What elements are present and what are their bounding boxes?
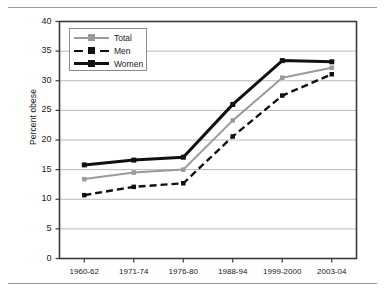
data-point-marker-total — [132, 170, 137, 175]
data-point-marker-women — [82, 162, 87, 167]
legend-label-women: Women — [111, 59, 143, 69]
legend-swatch-men-icon — [74, 45, 111, 56]
chart-legend: Total Men Women — [69, 28, 147, 71]
data-point-marker-total — [280, 76, 285, 81]
data-point-marker-men — [280, 93, 285, 98]
legend-label-total: Total — [111, 33, 132, 43]
x-tick-label: 1976-80 — [169, 267, 198, 276]
x-tick-label: 1960-62 — [70, 267, 99, 276]
data-series-layer — [82, 58, 334, 197]
data-point-marker-men — [132, 185, 137, 190]
y-tick-label: 0 — [26, 253, 52, 263]
y-tick-label: 35 — [26, 45, 52, 55]
x-tick-label: 1971-74 — [119, 267, 148, 276]
legend-item-women: Women — [74, 57, 143, 70]
legend-item-men: Men — [74, 44, 131, 57]
x-tick-label: 2003-04 — [317, 267, 346, 276]
y-tick-label: 30 — [26, 75, 52, 85]
y-tick-label: 20 — [26, 134, 52, 144]
legend-swatch-women-icon — [74, 58, 111, 69]
legend-swatch-total-icon — [74, 32, 111, 43]
data-point-marker-women — [131, 158, 136, 163]
data-point-marker-men — [231, 134, 236, 139]
data-point-marker-women — [230, 102, 235, 107]
series-line-men — [84, 74, 331, 195]
y-tick-label: 5 — [26, 223, 52, 233]
obesity-trend-line-chart — [0, 0, 385, 291]
data-point-marker-women — [280, 58, 285, 63]
data-point-marker-total — [82, 177, 87, 182]
plot-area-wrapper: Percent obese 4035302520151050 1960-6219… — [0, 0, 385, 291]
data-point-marker-total — [330, 66, 335, 71]
data-point-marker-total — [231, 118, 236, 123]
data-point-marker-men — [82, 193, 87, 198]
data-point-marker-women — [181, 155, 186, 160]
x-tick-label: 1988-94 — [218, 267, 247, 276]
y-tick-label: 10 — [26, 193, 52, 203]
legend-label-men: Men — [111, 46, 131, 56]
data-point-marker-men — [181, 181, 186, 186]
data-point-marker-total — [181, 167, 186, 172]
data-point-marker-men — [330, 72, 335, 77]
y-tick-label: 25 — [26, 104, 52, 114]
legend-item-total: Total — [74, 31, 132, 44]
y-tick-label: 40 — [26, 16, 52, 26]
y-tick-label: 15 — [26, 164, 52, 174]
chart-figure: Percent obese 4035302520151050 1960-6219… — [0, 0, 385, 291]
x-tick-label: 1999-2000 — [263, 267, 301, 276]
data-point-marker-women — [329, 59, 334, 64]
